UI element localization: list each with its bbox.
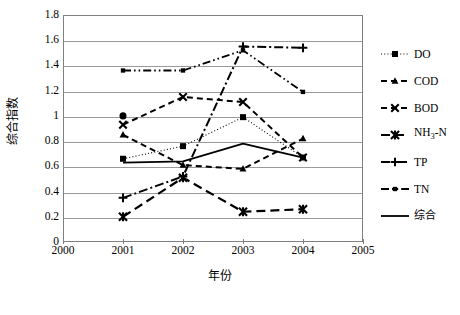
legend: DO COD BOD NH3-N TP TN 综合: [380, 40, 460, 229]
y-tick-label: 0.6: [25, 160, 59, 172]
x-tick-label: 2000: [40, 244, 86, 256]
data-point-do: [120, 156, 126, 162]
legend-label-tp: TP: [410, 156, 427, 168]
data-point-do: [180, 143, 186, 149]
data-point-tn: [181, 68, 185, 72]
legend-label-zonghe: 综合: [410, 210, 436, 222]
data-point-tp: [299, 43, 308, 52]
legend-item-zonghe[interactable]: 综合: [380, 202, 460, 229]
data-point-cod: [120, 131, 127, 137]
data-point-nh3-n: [119, 212, 127, 221]
y-tick-label: 1.6: [25, 34, 59, 46]
data-point-bod: [119, 121, 127, 129]
data-point-do: [240, 114, 246, 120]
y-tick-label: 0.8: [25, 135, 59, 147]
legend-key-cod: [380, 74, 410, 88]
legend-key-tn: [380, 182, 410, 196]
x-tick-label: 2004: [280, 244, 326, 256]
data-point-tn: [301, 90, 305, 94]
x-tick-label: 2005: [340, 244, 386, 256]
legend-label-cod: COD: [410, 75, 438, 87]
data-point-tp: [119, 194, 128, 203]
series-layer: [63, 15, 363, 242]
legend-label-do: DO: [410, 48, 431, 60]
y-tick-label: 0.2: [25, 211, 59, 223]
x-tick-label: 2003: [220, 244, 266, 256]
legend-key-nh3n: [380, 128, 410, 142]
data-point-tn: [241, 48, 245, 52]
series-line-tn: [123, 50, 303, 92]
y-tick-label: 1.8: [25, 9, 59, 21]
series-line-tp: [123, 47, 303, 198]
y-tick-label: 1: [25, 110, 59, 122]
data-point-tn: [121, 68, 125, 72]
series-line-nh3-n: [123, 178, 303, 217]
data-point-bod: [179, 93, 187, 101]
x-tick-label: 2002: [160, 244, 206, 256]
legend-label-bod: BOD: [410, 102, 438, 114]
legend-item-cod[interactable]: COD: [380, 67, 460, 94]
chart-container: 1.8 1.6 1.4 1.2 1 0.8 0.6 0.4 0.2 0 2000…: [0, 0, 460, 315]
y-tick-label: 1.4: [25, 59, 59, 71]
x-axis-label: 年份: [150, 266, 290, 283]
legend-item-do[interactable]: DO: [380, 40, 460, 67]
legend-item-nh3n[interactable]: NH3-N: [380, 121, 460, 148]
legend-item-bod[interactable]: BOD: [380, 94, 460, 121]
x-axis-ticks: 2000 2001 2002 2003 2004 2005: [63, 244, 363, 260]
legend-item-tp[interactable]: TP: [380, 148, 460, 175]
data-point-cod: [300, 135, 307, 141]
data-point-bod-2001: [119, 112, 126, 119]
legend-key-zonghe: [380, 209, 410, 223]
y-axis-ticks: 1.8 1.6 1.4 1.2 1 0.8 0.6 0.4 0.2 0: [22, 15, 59, 242]
legend-key-tp: [380, 155, 410, 169]
y-tick-label: 1.2: [25, 85, 59, 97]
x-tick-label: 2001: [100, 244, 146, 256]
y-axis-label: 综合指数: [3, 66, 20, 176]
legend-label-nh3n: NH3-N: [410, 126, 447, 143]
legend-key-bod: [380, 101, 410, 115]
y-tick-label: 0.4: [25, 186, 59, 198]
legend-label-tn: TN: [410, 183, 429, 195]
legend-item-tn[interactable]: TN: [380, 175, 460, 202]
legend-key-do: [380, 47, 410, 61]
